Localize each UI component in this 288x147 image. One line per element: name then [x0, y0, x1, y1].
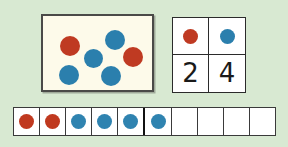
blue-dot-icon: [220, 29, 235, 44]
key-cell-blue-count[interactable]: 4: [209, 55, 245, 92]
blue-dot-3: [105, 30, 125, 50]
ten-frame-cell-8[interactable]: [198, 108, 224, 135]
ten-frame-cell-7[interactable]: [172, 108, 198, 135]
ten-frame-cell-10[interactable]: [250, 108, 275, 135]
red-count-value: 2: [182, 60, 199, 88]
ten-frame-cell-5[interactable]: [118, 108, 145, 135]
ten-frame-cell-3[interactable]: [66, 108, 92, 135]
ten-frame-cell-1[interactable]: [14, 108, 40, 135]
ten-frame-cell-4[interactable]: [92, 108, 118, 135]
ten-frame-cell-6[interactable]: [145, 108, 171, 135]
color-count-key-grid: 2 4: [172, 17, 246, 93]
red-dot-icon: [183, 29, 198, 44]
key-cell-red-icon: [173, 18, 209, 55]
blue-count-value: 4: [219, 60, 236, 88]
red-dot-icon: [19, 114, 34, 129]
ten-frame-cell-9[interactable]: [224, 108, 250, 135]
red-dot-4: [123, 47, 143, 67]
red-dot-1: [60, 36, 80, 56]
blue-dot-icon: [71, 114, 86, 129]
key-cell-red-count[interactable]: 2: [173, 55, 209, 92]
blue-dot-icon: [97, 114, 112, 129]
blue-dot-5: [59, 65, 79, 85]
blue-dot-2: [84, 49, 103, 68]
blue-dot-icon: [151, 114, 166, 129]
ten-frame-cell-2[interactable]: [40, 108, 66, 135]
red-dot-icon: [45, 114, 60, 129]
worksheet-canvas: 2 4: [0, 0, 288, 147]
key-cell-blue-icon: [209, 18, 245, 55]
dot-card: [41, 14, 154, 92]
ten-frame-strip: [13, 107, 276, 136]
blue-dot-6: [101, 66, 121, 86]
blue-dot-icon: [123, 114, 138, 129]
